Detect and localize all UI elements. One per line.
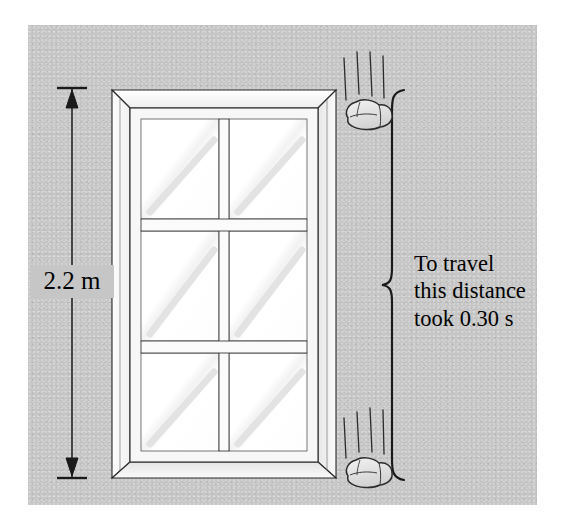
rock-top — [346, 100, 392, 130]
pane-r2c1 — [141, 231, 219, 341]
muntin-horizontal-upper — [141, 219, 307, 231]
motion-lines-bottom — [344, 408, 384, 458]
annotation-line-2: this distance — [414, 277, 526, 304]
rock-top-group — [344, 52, 392, 130]
annotation-line-3: took 0.30 s — [414, 305, 526, 332]
annotation-line-1: To travel — [414, 250, 526, 277]
rock-bottom — [346, 458, 392, 488]
dimension-arrow-up — [66, 90, 78, 108]
muntin-horizontal-lower — [141, 341, 307, 353]
figure-canvas: 2.2 m To travel this distance took 0.30 … — [0, 0, 565, 531]
pane-r2c2 — [229, 231, 307, 341]
muntin-vertical — [219, 119, 229, 451]
brace-annotation: To travel this distance took 0.30 s — [414, 250, 526, 332]
brace-path — [382, 90, 404, 480]
dimension-arrow-down — [66, 458, 78, 476]
window-assembly — [112, 90, 336, 478]
brace — [382, 90, 404, 480]
rock-bottom-group — [344, 408, 392, 488]
motion-lines-top — [344, 52, 384, 100]
dimension-label: 2.2 m — [30, 265, 114, 298]
